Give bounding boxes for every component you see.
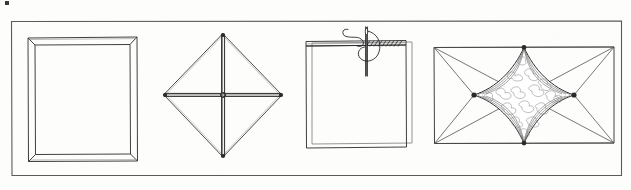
scanned-diagram-canvas: [0, 0, 631, 190]
tip-knot-right: [279, 93, 283, 97]
gather-node-right: [571, 92, 576, 97]
diagram-svg: [0, 0, 631, 190]
scan-speck-artifact: [5, 1, 9, 5]
gather-node-bottom: [522, 141, 527, 146]
tip-knot-bottom: [221, 154, 225, 158]
tip-knot-left: [163, 93, 167, 97]
tip-knot-top: [221, 33, 225, 37]
needle-eye: [365, 29, 368, 35]
gather-node-top: [522, 45, 527, 50]
gather-node-left: [471, 92, 476, 97]
